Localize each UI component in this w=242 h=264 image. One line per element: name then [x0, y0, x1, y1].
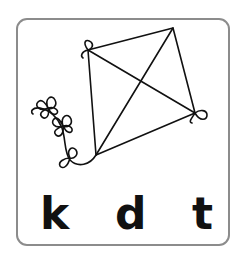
choice-letter-d[interactable]: d — [115, 192, 147, 236]
choice-letter-t[interactable]: t — [192, 192, 213, 236]
choice-letter-k[interactable]: k — [40, 192, 69, 236]
